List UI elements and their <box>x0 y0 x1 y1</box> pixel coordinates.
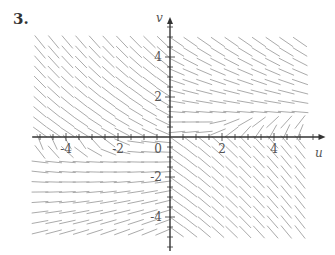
slope-segment <box>293 69 308 75</box>
slope-segment <box>61 117 74 126</box>
slope-segment <box>170 207 183 216</box>
slope-segment <box>76 46 87 58</box>
slope-segment <box>116 67 128 78</box>
slope-segment <box>211 58 225 65</box>
slope-segment <box>170 157 183 166</box>
slope-segment <box>89 46 100 58</box>
slope-segment <box>102 77 114 87</box>
slope-segment <box>48 56 59 68</box>
slope-segment <box>103 36 114 48</box>
slope-segment <box>101 229 116 234</box>
slope-segment <box>279 58 293 65</box>
slope-segment <box>293 37 306 46</box>
slope-segment <box>48 76 59 87</box>
slope-segment <box>224 79 239 84</box>
slope-segment <box>197 79 212 84</box>
slope-segment <box>35 146 45 159</box>
slope-segment <box>254 176 265 188</box>
u-axis-label: u <box>315 146 323 160</box>
slope-segment <box>210 101 226 104</box>
slope-segment <box>169 79 184 84</box>
slope-segment <box>88 97 101 107</box>
slope-segment <box>266 48 280 56</box>
slope-segment <box>102 67 114 78</box>
slope-segment <box>184 48 198 56</box>
slope-segment <box>115 108 128 117</box>
slope-segment <box>254 166 265 178</box>
slope-segment <box>142 200 158 204</box>
slope-segment <box>238 69 253 75</box>
slope-segment <box>184 217 197 227</box>
slope-segment <box>184 37 197 46</box>
slope-segment <box>212 177 224 188</box>
slope-segment <box>224 119 239 125</box>
slope-segment <box>130 36 141 47</box>
slope-segment <box>211 48 225 56</box>
slope-segment <box>254 216 265 228</box>
slope-segment <box>75 77 87 88</box>
slope-segment <box>183 90 199 94</box>
slope-segment <box>210 90 226 94</box>
slope-segment <box>183 58 197 65</box>
slope-segment <box>143 67 155 77</box>
u-tick-label: -4 <box>60 142 72 156</box>
slope-segment <box>142 118 156 125</box>
slope-segment <box>157 77 170 86</box>
slope-segment <box>240 136 251 147</box>
slope-segment <box>295 216 305 229</box>
slope-segment <box>224 58 238 65</box>
slope-segment <box>62 66 73 77</box>
slope-segment <box>254 226 265 238</box>
slope-segment <box>198 167 210 177</box>
slope-segment <box>169 69 184 75</box>
slope-segment <box>155 200 171 204</box>
slope-segment <box>254 156 265 168</box>
slope-segment <box>267 186 278 198</box>
slope-segment <box>89 136 100 148</box>
slope-segment <box>224 90 240 94</box>
slope-segment <box>34 117 47 127</box>
slope-segment <box>198 187 210 197</box>
slope-segment <box>34 86 46 97</box>
slope-segment <box>170 147 183 156</box>
slope-segment <box>35 66 46 78</box>
slope-segment <box>184 167 197 177</box>
slope-segment <box>212 207 224 218</box>
slope-segment <box>157 36 169 47</box>
slope-segment <box>183 79 198 84</box>
slope-segment <box>265 90 281 94</box>
slope-segment <box>226 226 238 237</box>
slope-segment <box>292 90 308 94</box>
slope-segment <box>226 196 238 207</box>
slope-segment <box>212 157 224 168</box>
slope-segment <box>46 220 62 223</box>
slope-segment <box>157 67 170 77</box>
slope-segment <box>254 206 265 218</box>
slope-segment <box>240 226 251 237</box>
slope-segment <box>184 227 197 237</box>
slope-segment <box>240 166 251 177</box>
slope-segment <box>238 118 252 126</box>
slope-segment <box>225 127 238 137</box>
slope-segment <box>226 146 238 157</box>
slope-segment <box>88 148 102 156</box>
slope-segment <box>295 226 305 239</box>
slope-segment <box>48 87 60 98</box>
slope-segment <box>88 107 101 116</box>
slope-segment <box>196 101 212 104</box>
slope-segment <box>238 79 253 84</box>
slope-segment <box>279 90 295 94</box>
slope-segment <box>251 79 266 84</box>
slope-segment <box>254 196 265 208</box>
slope-segment <box>184 137 197 147</box>
slope-segment <box>156 108 170 116</box>
slope-segment <box>73 230 88 235</box>
slope-segment <box>60 220 76 223</box>
slope-segment <box>265 79 280 84</box>
slope-segment <box>295 166 305 179</box>
slope-segment <box>34 107 46 117</box>
slope-segment <box>240 186 251 197</box>
slope-segment <box>254 146 265 158</box>
slope-segment <box>212 217 224 228</box>
slope-segment <box>295 176 305 189</box>
